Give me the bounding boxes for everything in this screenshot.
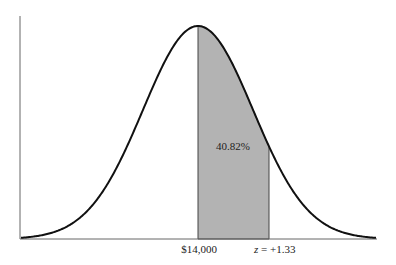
z-tick-label: z = +1.33	[253, 243, 296, 255]
normal-distribution-chart: 40.82% $14,000 z = +1.33	[0, 0, 396, 265]
z-value: = +1.33	[258, 243, 296, 255]
shaded-area	[198, 26, 269, 239]
area-percent-label: 40.82%	[216, 140, 250, 152]
mean-tick-label: $14,000	[181, 243, 217, 255]
